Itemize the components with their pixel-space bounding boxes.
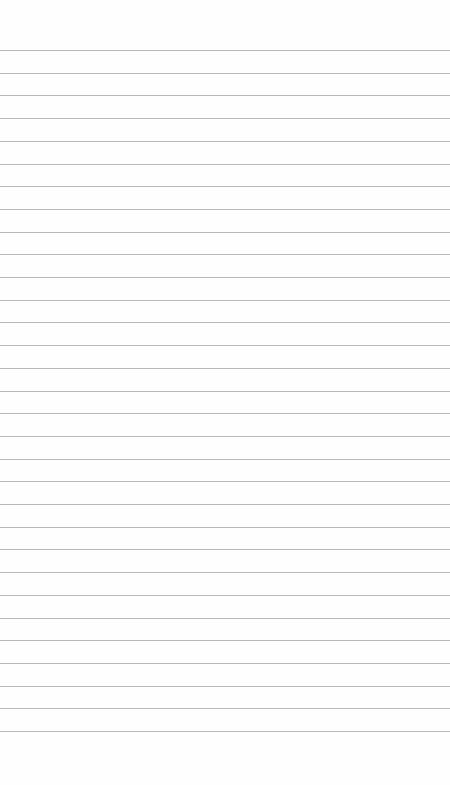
ruled-line: [0, 141, 450, 142]
ruled-line: [0, 232, 450, 233]
ruled-line: [0, 95, 450, 96]
ruled-line: [0, 50, 450, 51]
ruled-line: [0, 322, 450, 323]
ruled-line: [0, 663, 450, 664]
ruled-line: [0, 549, 450, 550]
ruled-line: [0, 413, 450, 414]
ruled-line: [0, 186, 450, 187]
ruled-line: [0, 436, 450, 437]
ruled-line: [0, 686, 450, 687]
ruled-line: [0, 459, 450, 460]
ruled-line: [0, 118, 450, 119]
ruled-line: [0, 277, 450, 278]
ruled-line: [0, 731, 450, 732]
ruled-line: [0, 391, 450, 392]
ruled-line: [0, 481, 450, 482]
ruled-line: [0, 73, 450, 74]
ruled-line: [0, 640, 450, 641]
ruled-line: [0, 300, 450, 301]
ruled-line: [0, 254, 450, 255]
ruled-line: [0, 164, 450, 165]
ruled-line: [0, 527, 450, 528]
ruled-line: [0, 504, 450, 505]
ruled-line: [0, 572, 450, 573]
ruled-line: [0, 368, 450, 369]
lined-paper: [0, 0, 450, 785]
ruled-line: [0, 618, 450, 619]
ruled-line: [0, 708, 450, 709]
ruled-line: [0, 345, 450, 346]
ruled-line: [0, 209, 450, 210]
ruled-line: [0, 595, 450, 596]
